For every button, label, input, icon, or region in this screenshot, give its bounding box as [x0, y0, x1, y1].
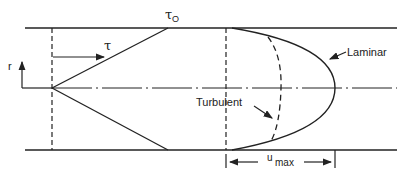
pipe-flow-diagram: r τ τ O Laminar Turbulent u max — [0, 0, 405, 178]
svg-text:O: O — [172, 14, 179, 24]
svg-text:u: u — [267, 152, 273, 163]
shear-label: τ — [104, 38, 111, 53]
wall-shear-label: τ O — [165, 7, 179, 24]
shear-line-lower — [52, 88, 168, 150]
umax-label: u max — [267, 152, 294, 168]
turbulent-label: Turbulent — [196, 96, 242, 108]
radius-axis — [22, 62, 52, 88]
turbulent-arrow — [254, 106, 272, 118]
laminar-arrow — [330, 52, 346, 59]
svg-text:max: max — [275, 157, 294, 168]
shear-line-upper — [52, 28, 168, 88]
laminar-label: Laminar — [347, 46, 387, 58]
radius-label: r — [8, 60, 12, 72]
laminar-profile — [232, 28, 335, 150]
turbulent-profile — [268, 37, 281, 141]
